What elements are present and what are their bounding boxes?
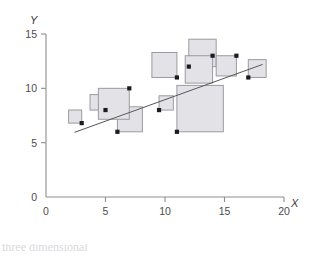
data-point-marker bbox=[103, 108, 107, 112]
x-tick-label: 0 bbox=[43, 205, 49, 217]
bubble-square bbox=[216, 56, 236, 76]
data-point-marker bbox=[175, 130, 179, 134]
x-tick-label: 5 bbox=[103, 205, 109, 217]
x-axis-ticks: 0 5 10 15 20 bbox=[43, 197, 290, 217]
data-point-marker bbox=[127, 86, 131, 90]
y-tick-label: 15 bbox=[25, 28, 37, 40]
y-axis-ticks: 15 10 5 0 bbox=[25, 28, 46, 203]
data-point-marker bbox=[80, 121, 84, 125]
bubble-squares-group bbox=[69, 39, 267, 132]
figure-caption-strip: three dimensional bbox=[0, 244, 314, 256]
x-tick-label: 15 bbox=[219, 205, 231, 217]
y-tick-label: 10 bbox=[25, 82, 37, 94]
y-axis-title: Y bbox=[30, 14, 38, 26]
y-tick-label: 0 bbox=[31, 191, 37, 203]
bubble-scatter-figure: Y X 15 10 5 0 0 5 10 15 20 bbox=[0, 0, 314, 256]
data-point-marker bbox=[246, 75, 250, 79]
data-point-marker bbox=[234, 54, 238, 58]
bubble-square bbox=[185, 56, 212, 83]
scatter-plot-canvas: Y X 15 10 5 0 0 5 10 15 20 bbox=[0, 0, 314, 256]
data-point-marker bbox=[187, 65, 191, 69]
data-point-marker bbox=[175, 75, 179, 79]
y-tick-label: 5 bbox=[31, 137, 37, 149]
data-point-marker bbox=[211, 54, 215, 58]
x-tick-label: 10 bbox=[159, 205, 171, 217]
x-tick-label: 20 bbox=[278, 205, 290, 217]
data-point-marker bbox=[115, 130, 119, 134]
figure-caption: three dimensional bbox=[2, 244, 88, 255]
bubble-square bbox=[152, 52, 177, 77]
x-axis-title: X bbox=[290, 197, 299, 209]
data-point-marker bbox=[157, 108, 161, 112]
